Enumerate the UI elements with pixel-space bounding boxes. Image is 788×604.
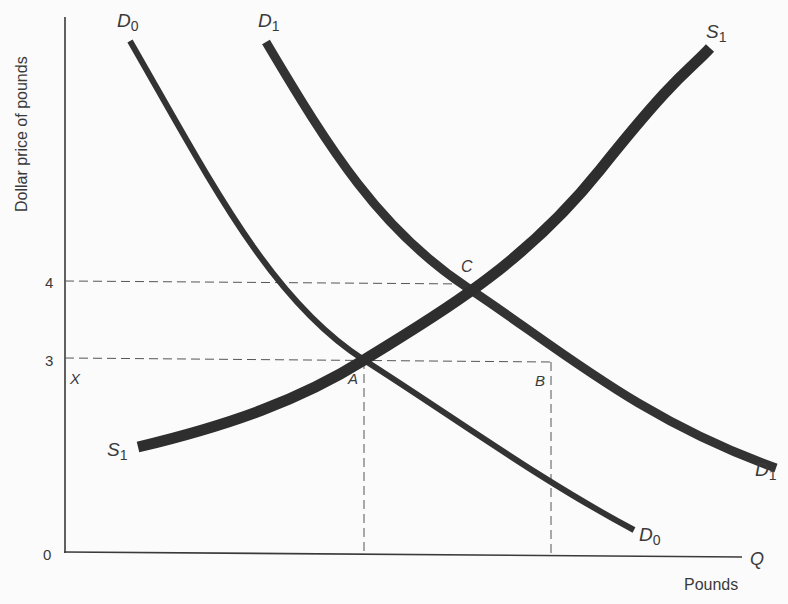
curve-label-name: D — [117, 10, 131, 31]
curve-label-name: D — [755, 459, 769, 480]
curve-label-d1-top: D1 — [258, 10, 280, 34]
svg-text:S1: S1 — [706, 21, 727, 45]
curve-label-name: S — [107, 439, 120, 460]
curve-label-d0-top: D0 — [117, 10, 139, 34]
x-axis-end-label: Q — [750, 549, 764, 569]
point-label-c: C — [461, 258, 473, 275]
svg-text:S1: S1 — [107, 439, 128, 463]
demand-curve-d0 — [130, 41, 634, 530]
curve-label-sub: 1 — [719, 29, 727, 45]
curve-label-name: D — [258, 10, 272, 31]
curve-label-sub: 1 — [272, 18, 280, 34]
guide-price-4 — [65, 281, 468, 284]
x-axis — [64, 552, 742, 557]
guide-price-3 — [65, 358, 551, 362]
svg-text:D1: D1 — [258, 10, 280, 34]
y-tick-3: 3 — [45, 352, 53, 369]
curve-label-name: D — [639, 524, 653, 545]
point-label-x: X — [69, 370, 81, 387]
origin-label: 0 — [43, 546, 51, 563]
y-tick-4: 4 — [45, 274, 53, 291]
curve-label-s1-bottom: S1 — [107, 439, 128, 463]
point-label-b: B — [535, 372, 545, 389]
curve-label-d0-bottom: D0 — [639, 524, 661, 548]
y-axis-label: Dollar price of pounds — [13, 56, 30, 212]
curve-label-s1-top: S1 — [706, 21, 727, 45]
curve-label-sub: 1 — [769, 467, 777, 483]
point-label-a: A — [347, 370, 358, 387]
svg-text:D0: D0 — [117, 10, 139, 34]
curve-label-name: S — [706, 21, 719, 42]
supply-curve-s1 — [138, 48, 710, 447]
curve-label-sub: 1 — [120, 447, 128, 463]
x-axis-label: Pounds — [684, 576, 738, 593]
supply-demand-diagram: Dollar price of pounds Pounds Q 0 4 3 X … — [0, 0, 788, 604]
curve-label-sub: 0 — [131, 18, 139, 34]
svg-text:D0: D0 — [639, 524, 661, 548]
curve-label-sub: 0 — [653, 532, 661, 548]
